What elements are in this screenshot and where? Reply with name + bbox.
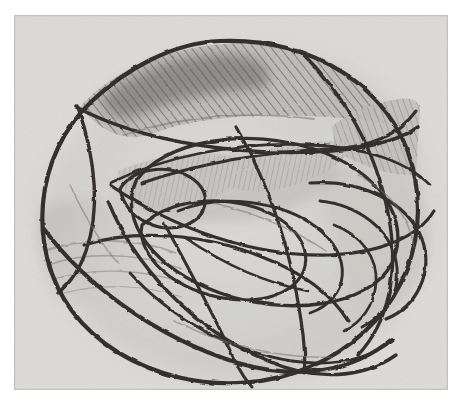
drawing-paper	[14, 15, 448, 390]
paper-grain-overlay	[14, 15, 448, 390]
artwork-frame: Abstract Composition Charcoal and graphi…	[0, 0, 466, 418]
charcoal-drawing-canvas	[14, 15, 448, 390]
